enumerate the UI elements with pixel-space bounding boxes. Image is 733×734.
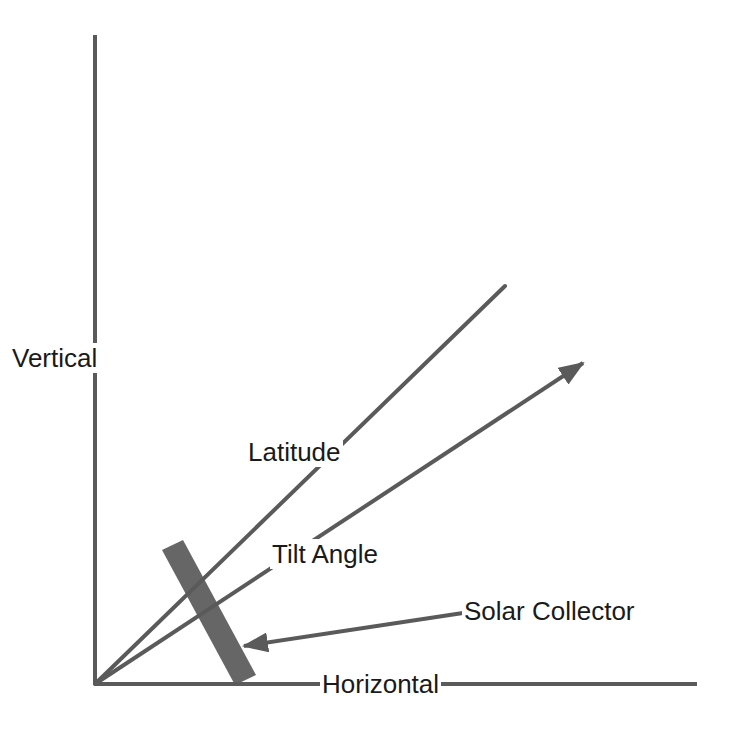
tilt-angle-arrow — [95, 363, 583, 684]
horizontal-label: Horizontal — [320, 669, 441, 699]
vertical-label: Vertical — [10, 343, 99, 373]
latitude-label: Latitude — [246, 437, 343, 467]
tilt-angle-label: Tilt Angle — [270, 539, 380, 569]
latitude-line — [95, 286, 505, 684]
collector-pointer-arrow — [244, 613, 463, 646]
solar-collector-panel — [162, 540, 256, 685]
solar-collector-label: Solar Collector — [462, 596, 637, 626]
